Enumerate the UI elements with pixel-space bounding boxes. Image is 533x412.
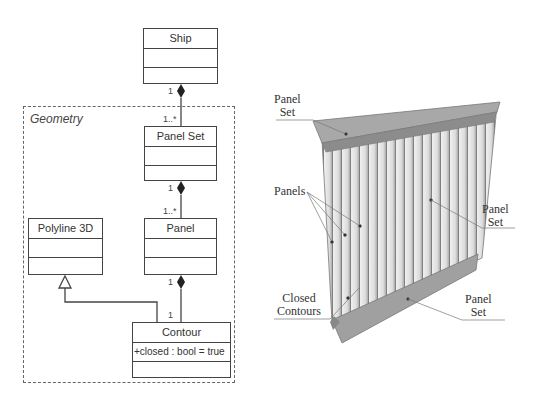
label-panel-set-top: PanelSet: [274, 93, 301, 119]
label-panel-set-bottom: PanelSet: [465, 293, 492, 319]
label-panels: Panels: [274, 185, 305, 198]
label-panel-set-right: PanelSet: [482, 203, 509, 229]
panel-structure-illustration: [0, 0, 533, 412]
label-closed-contours: ClosedContours: [277, 292, 321, 318]
